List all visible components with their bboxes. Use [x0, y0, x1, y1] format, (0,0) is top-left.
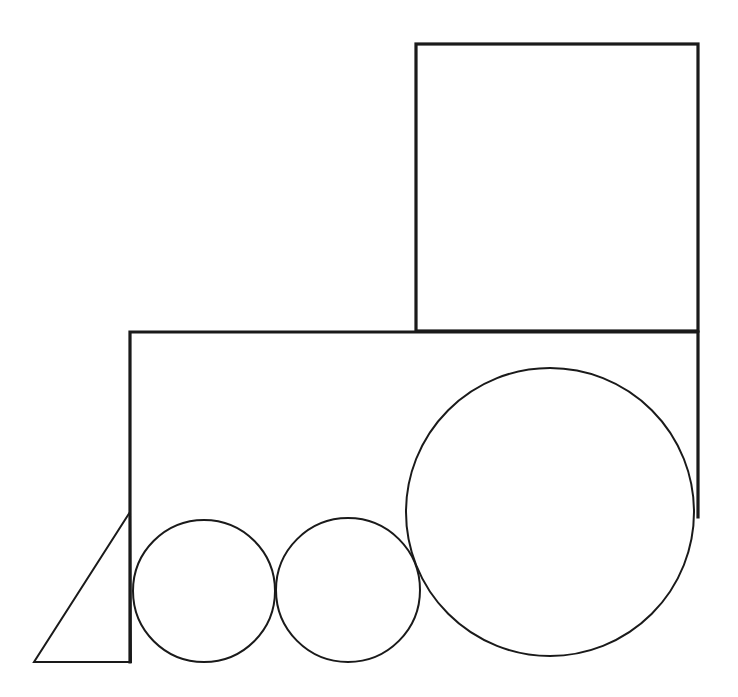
train-diagram — [0, 0, 738, 697]
small-wheel-front — [133, 520, 275, 662]
large-wheel-rear — [406, 368, 694, 656]
cab-rectangle — [416, 44, 698, 331]
cowcatcher-triangle — [34, 512, 131, 662]
small-wheel-middle — [276, 518, 420, 662]
